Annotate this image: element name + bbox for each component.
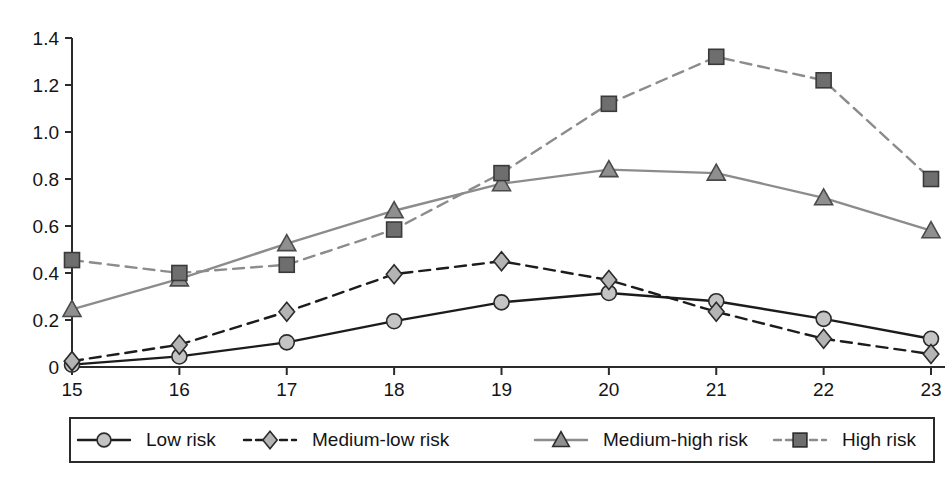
series-medium-low-risk	[64, 252, 939, 371]
y-tick-label: 1.0	[33, 122, 59, 143]
marker-square	[793, 433, 807, 447]
marker-diamond	[494, 252, 510, 271]
legend-label: High risk	[842, 429, 916, 450]
legend-label: Medium-high risk	[603, 429, 748, 450]
marker-diamond	[386, 265, 402, 284]
legend-label: Low risk	[146, 429, 216, 450]
x-tick-label: 21	[706, 379, 727, 400]
marker-diamond	[923, 345, 939, 364]
marker-square	[279, 257, 294, 272]
y-tick-label: 0.4	[33, 263, 60, 284]
y-tick-label: 0.2	[33, 310, 59, 331]
line-chart: 00.20.40.60.81.01.21.4 15161718192021222…	[0, 0, 952, 480]
y-axis: 00.20.40.60.81.01.21.4	[33, 28, 72, 378]
series-medium-high-risk	[63, 161, 940, 317]
marker-circle	[279, 335, 294, 350]
marker-diamond	[601, 271, 617, 290]
series-layer	[63, 49, 940, 372]
series-line	[72, 261, 931, 361]
marker-circle	[494, 295, 509, 310]
y-tick-label: 0.6	[33, 216, 59, 237]
series-high-risk	[65, 49, 939, 280]
y-tick-label: 1.4	[33, 28, 60, 49]
x-tick-label: 17	[276, 379, 297, 400]
marker-circle	[97, 433, 111, 447]
marker-square	[709, 49, 724, 64]
marker-square	[924, 172, 939, 187]
y-tick-label: 0	[48, 357, 59, 378]
marker-circle	[387, 314, 402, 329]
series-low-risk	[65, 285, 939, 372]
x-tick-label: 16	[169, 379, 190, 400]
x-tick-label: 15	[61, 379, 82, 400]
x-axis: 151617181920212223	[61, 367, 945, 400]
chart-canvas: 00.20.40.60.81.01.21.4 15161718192021222…	[0, 0, 952, 480]
x-tick-label: 22	[813, 379, 834, 400]
marker-square	[494, 166, 509, 181]
marker-square	[601, 96, 616, 111]
marker-square	[387, 222, 402, 237]
x-tick-label: 20	[598, 379, 619, 400]
chart-legend: Low riskMedium-low riskMedium-high riskH…	[70, 418, 934, 462]
y-tick-label: 0.8	[33, 169, 59, 190]
marker-diamond	[279, 302, 295, 321]
marker-diamond	[816, 329, 832, 348]
marker-square	[816, 73, 831, 88]
marker-circle	[816, 311, 831, 326]
legend-label: Medium-low risk	[312, 429, 450, 450]
x-tick-label: 23	[920, 379, 941, 400]
marker-square	[65, 253, 80, 268]
marker-square	[172, 266, 187, 281]
x-tick-label: 18	[384, 379, 405, 400]
x-tick-label: 19	[491, 379, 512, 400]
y-tick-label: 1.2	[33, 75, 59, 96]
